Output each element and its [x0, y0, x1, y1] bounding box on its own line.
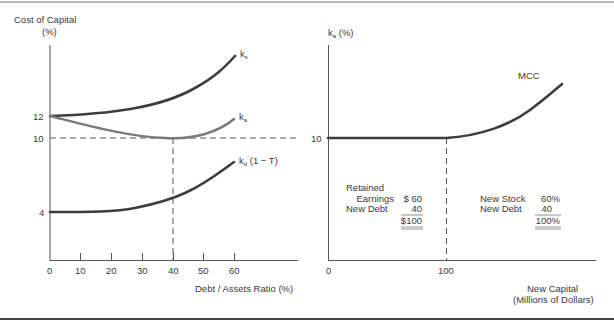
- svg-text:40: 40: [541, 203, 552, 214]
- svg-text:20: 20: [106, 265, 117, 276]
- left-annotation-table: Retained Earnings $ 60 New Debt 40 $100: [346, 182, 423, 229]
- series-ks-line: [50, 56, 235, 116]
- right-xtick-0: 0: [326, 265, 331, 276]
- right-annotation-table: New Stock 60% New Debt 40 100%: [480, 193, 561, 229]
- left-xlabel: Debt / Assets Ratio (%): [195, 283, 293, 294]
- right-ylabel: ka (%): [328, 27, 354, 39]
- left-ytick-12: 12: [33, 111, 44, 122]
- right-xlabel-line2: (Millions of Dollars): [513, 294, 594, 305]
- left-ylabel-line1: Cost of Capital: [14, 14, 76, 25]
- svg-text:New Debt: New Debt: [346, 203, 388, 214]
- svg-text:40: 40: [411, 203, 422, 214]
- left-ytick-10: 10: [33, 133, 44, 144]
- left-ytick-4: 4: [39, 207, 44, 218]
- svg-text:60: 60: [229, 265, 240, 276]
- left-ylabel-line2: (%): [42, 26, 57, 37]
- series-kd-line: [50, 162, 234, 212]
- svg-text:0: 0: [47, 265, 52, 276]
- svg-text:$100: $100: [401, 215, 422, 226]
- svg-text:30: 30: [137, 265, 148, 276]
- series-ks-label: ks: [240, 48, 248, 60]
- series-kd-label: kd (1 − T): [239, 155, 278, 167]
- svg-text:Retained: Retained: [346, 182, 384, 193]
- series-mcc-line: [328, 84, 562, 138]
- svg-text:10: 10: [75, 265, 86, 276]
- right-xlabel-line1: New Capital: [527, 283, 578, 294]
- series-ka-label: ka: [239, 111, 248, 123]
- left-x-tick-marks: [81, 253, 235, 260]
- svg-text:40: 40: [168, 265, 179, 276]
- svg-text:New Debt: New Debt: [480, 203, 522, 214]
- right-chart: ka (%) 10 0 100 New Capital (Millions of…: [311, 27, 596, 305]
- left-chart: Cost of Capital (%) 12 10 4 0 10 20 30 4…: [14, 14, 298, 294]
- right-xtick-100: 100: [438, 265, 454, 276]
- figure: Cost of Capital (%) 12 10 4 0 10 20 30 4…: [0, 0, 614, 321]
- svg-text:100%: 100%: [536, 215, 561, 226]
- left-x-tick-labels: 0 10 20 30 40 50 60: [47, 265, 240, 276]
- svg-text:50: 50: [198, 265, 209, 276]
- series-ka-line: [50, 116, 234, 138]
- right-ytick-10: 10: [311, 133, 322, 144]
- series-mcc-label: MCC: [518, 70, 540, 81]
